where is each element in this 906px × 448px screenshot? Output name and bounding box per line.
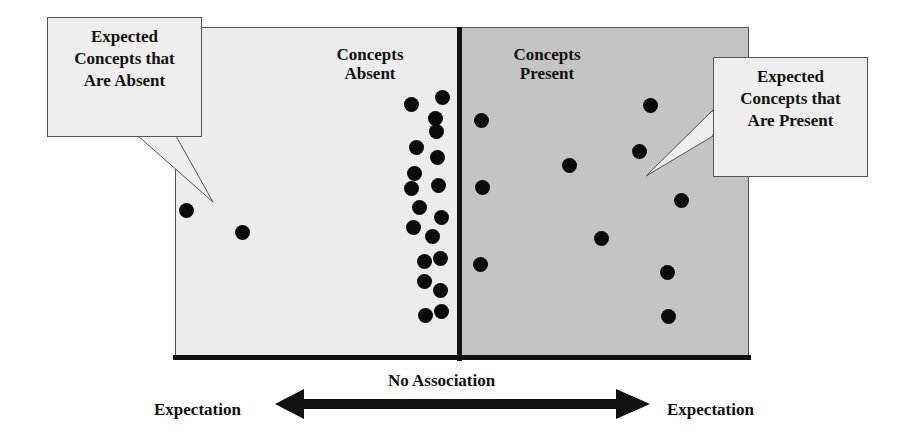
left-expectation-label: Expectation: [154, 400, 241, 420]
callout-line: Are Absent: [48, 70, 201, 92]
callout-line: Expected: [48, 26, 201, 48]
callout-line: Are Present: [714, 110, 867, 132]
right-expectation-label: Expectation: [667, 400, 754, 420]
expected-present-callout: Expected Concepts that Are Present: [713, 57, 868, 177]
no-association-label: No Association: [388, 371, 495, 391]
callout-line: Concepts that: [714, 88, 867, 110]
callout-line: Expected: [714, 66, 867, 88]
expected-absent-callout: Expected Concepts that Are Absent: [47, 17, 202, 137]
callout-line: Concepts that: [48, 48, 201, 70]
